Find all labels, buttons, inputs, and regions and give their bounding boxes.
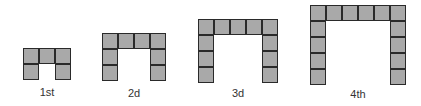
figure-label: 1st bbox=[40, 86, 55, 98]
tile bbox=[23, 48, 39, 64]
tile bbox=[198, 51, 214, 67]
tile bbox=[390, 53, 406, 69]
tile bbox=[310, 53, 326, 69]
figure-label: 2d bbox=[128, 87, 140, 99]
tile bbox=[134, 33, 150, 49]
tile bbox=[262, 51, 278, 67]
tile bbox=[198, 67, 214, 83]
tile bbox=[262, 19, 278, 35]
tile bbox=[310, 21, 326, 37]
tile bbox=[246, 19, 262, 35]
tile bbox=[39, 48, 55, 64]
tile bbox=[150, 33, 166, 49]
tile bbox=[390, 21, 406, 37]
figure-label: 4th bbox=[350, 88, 365, 100]
tile bbox=[310, 69, 326, 85]
tile bbox=[390, 69, 406, 85]
tile bbox=[230, 19, 246, 35]
tile bbox=[150, 65, 166, 81]
tile bbox=[214, 19, 230, 35]
tile bbox=[358, 5, 374, 21]
tile bbox=[150, 49, 166, 65]
tile bbox=[262, 67, 278, 83]
tile bbox=[390, 37, 406, 53]
tile bbox=[198, 19, 214, 35]
figure-label: 3d bbox=[232, 87, 244, 99]
tile bbox=[102, 33, 118, 49]
tile bbox=[55, 64, 71, 80]
tile bbox=[55, 48, 71, 64]
tile bbox=[262, 35, 278, 51]
tile bbox=[198, 35, 214, 51]
tile bbox=[102, 65, 118, 81]
tile bbox=[102, 49, 118, 65]
tile bbox=[342, 5, 358, 21]
tile bbox=[310, 37, 326, 53]
tile bbox=[390, 5, 406, 21]
tile bbox=[374, 5, 390, 21]
tile bbox=[326, 5, 342, 21]
tile bbox=[310, 5, 326, 21]
tile bbox=[118, 33, 134, 49]
tile bbox=[23, 64, 39, 80]
